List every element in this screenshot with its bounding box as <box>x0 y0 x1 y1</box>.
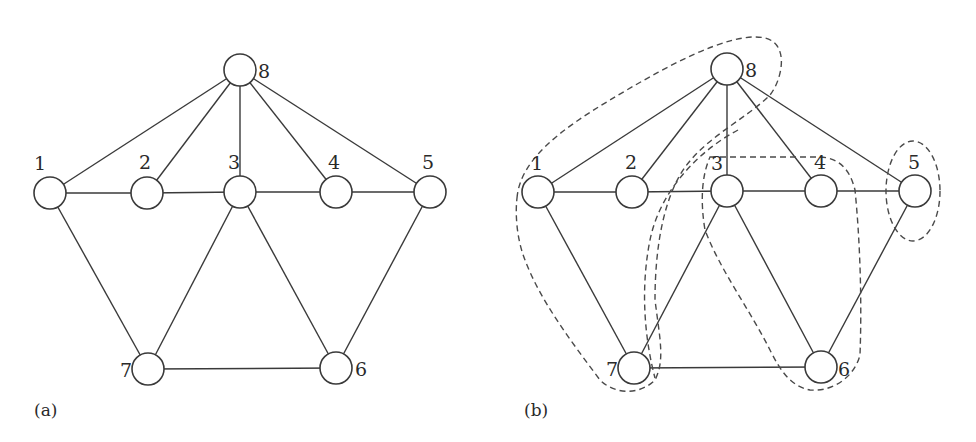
edge-5-6 <box>821 191 915 367</box>
edge-8-4 <box>727 69 821 191</box>
edge-8-2 <box>147 70 240 193</box>
edge-8-4 <box>240 70 336 192</box>
node-3 <box>711 175 743 207</box>
edge-7-6 <box>148 368 336 369</box>
node-4 <box>805 175 837 207</box>
edge-3-7 <box>634 191 727 368</box>
edges <box>50 70 430 369</box>
panel-caption-b: (b) <box>524 400 548 420</box>
node-label-1: 1 <box>34 152 46 174</box>
edge-7-6 <box>634 367 821 368</box>
node-label-3: 3 <box>711 152 723 174</box>
node-1 <box>34 177 66 209</box>
node-7 <box>618 352 650 384</box>
node-8 <box>711 53 743 85</box>
node-7 <box>132 353 164 385</box>
node-label-5: 5 <box>908 151 920 173</box>
edge-1-7 <box>538 192 634 368</box>
node-6 <box>320 352 352 384</box>
node-5 <box>899 175 931 207</box>
node-label-4: 4 <box>814 151 826 173</box>
node-5 <box>414 176 446 208</box>
edge-8-5 <box>240 70 430 192</box>
node-label-2: 2 <box>625 151 637 173</box>
node-8 <box>224 54 256 86</box>
node-6 <box>805 351 837 383</box>
node-4 <box>320 176 352 208</box>
edge-3-6 <box>727 191 821 367</box>
node-label-8: 8 <box>745 59 757 81</box>
node-label-3: 3 <box>228 151 240 173</box>
node-2 <box>616 176 648 208</box>
node-label-4: 4 <box>328 151 340 173</box>
node-label-7: 7 <box>606 358 618 380</box>
edge-1-7 <box>50 193 148 369</box>
edge-5-6 <box>336 192 430 368</box>
cluster-1-2-7-8-outline <box>516 37 781 391</box>
panel-caption-a: (a) <box>34 400 57 420</box>
node-1 <box>522 176 554 208</box>
cluster-outlines <box>516 37 940 391</box>
cluster-3-7-outline <box>645 130 738 378</box>
node-label-5: 5 <box>422 151 434 173</box>
panel-b-graph: 12345678(b) <box>516 37 940 420</box>
node-label-6: 6 <box>355 358 367 380</box>
node-label-2: 2 <box>139 151 151 173</box>
node-label-7: 7 <box>120 359 132 381</box>
node-label-8: 8 <box>258 60 270 82</box>
panel-a-graph: 12345678(a) <box>34 54 446 420</box>
edge-8-1 <box>50 70 240 193</box>
node-3 <box>224 176 256 208</box>
edge-3-7 <box>148 192 240 369</box>
graph-figure: 12345678(a) 12345678(b) <box>0 0 976 442</box>
node-label-1: 1 <box>531 152 543 174</box>
node-label-6: 6 <box>838 358 850 380</box>
edges <box>538 69 915 368</box>
edge-3-6 <box>240 192 336 368</box>
node-2 <box>131 177 163 209</box>
